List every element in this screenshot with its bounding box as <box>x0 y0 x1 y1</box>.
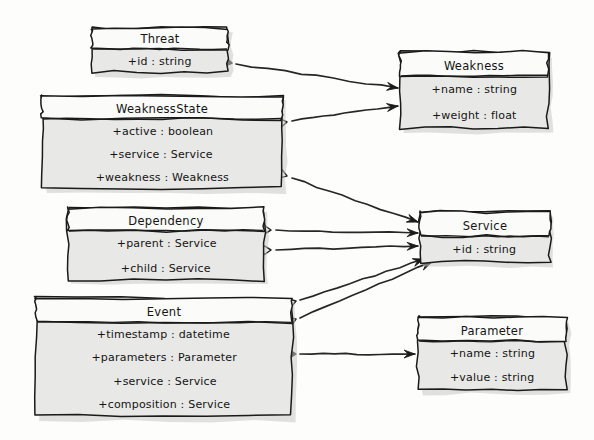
class-attribute: +weight : float <box>432 109 517 122</box>
class-attribute: +composition : Service <box>98 398 230 411</box>
class-name: Dependency <box>128 214 203 228</box>
relationship-line <box>300 259 424 300</box>
uml-diagram-canvas: Threat+id : stringWeakness+name : string… <box>0 0 594 440</box>
relationship-event-service-service <box>282 255 425 309</box>
class-compartment-divider <box>69 230 263 231</box>
relationship-weaknessstate-service <box>273 168 419 226</box>
class-box-parameter[interactable]: Parameter+name : string+value : string <box>416 316 571 396</box>
class-attribute: +parent : Service <box>117 237 217 250</box>
class-attribute: +id : string <box>128 55 192 68</box>
class-box-weakness[interactable]: Weakness+name : string+weight : float <box>398 50 553 134</box>
class-box-threat[interactable]: Threat+id : string <box>91 27 234 79</box>
relationship-line <box>236 64 398 88</box>
class-box-service[interactable]: Service+id : string <box>419 211 554 269</box>
class-attribute: +name : string <box>432 83 518 96</box>
relationship-event-service-composition <box>282 258 433 328</box>
class-box-weaknessstate[interactable]: WeaknessState+active : boolean+service :… <box>41 95 288 195</box>
class-name: WeaknessState <box>116 102 208 116</box>
arrowhead-icon <box>406 215 419 226</box>
relationship-event-parameter <box>283 350 415 359</box>
class-box-event[interactable]: Event+timestamp : datetime+parameters : … <box>35 297 298 423</box>
class-attribute: +weakness : Weakness <box>96 171 229 184</box>
relationship-weaknessstate-weakness <box>274 102 399 128</box>
class-name: Service <box>463 219 508 233</box>
class-attribute: +parameters : Parameter <box>91 351 237 364</box>
relationship-line <box>292 178 418 222</box>
class-box-dependency[interactable]: Dependency+parent : Service+child : Serv… <box>66 207 269 285</box>
relationship-dependency-service-child <box>258 242 418 255</box>
class-attribute: +service : Service <box>109 148 213 161</box>
arrowhead-icon <box>387 82 399 92</box>
class-attribute: +timestamp : datetime <box>97 328 230 341</box>
class-name: Parameter <box>461 324 524 338</box>
relationship-dependency-service-parent <box>258 225 418 237</box>
class-attribute: +child : Service <box>121 262 211 275</box>
class-name: Threat <box>139 32 179 46</box>
class-layer: Threat+id : stringWeakness+name : string… <box>35 27 572 423</box>
class-attribute: +id : string <box>452 243 516 256</box>
class-attribute: +service : Service <box>113 375 217 388</box>
diagram-svg: Threat+id : stringWeakness+name : string… <box>0 0 594 440</box>
relationship-line <box>292 106 398 121</box>
class-attribute: +name : string <box>450 347 536 360</box>
class-name: Weakness <box>444 59 504 73</box>
relationship-line <box>300 353 415 355</box>
class-attribute: +active : boolean <box>113 125 214 138</box>
relationship-line <box>276 246 418 250</box>
relationship-line <box>276 230 418 233</box>
class-attribute: +value : string <box>450 371 535 384</box>
class-name: Event <box>147 305 182 319</box>
relationship-line <box>300 262 432 318</box>
relationship-threat-weakness <box>219 57 399 92</box>
